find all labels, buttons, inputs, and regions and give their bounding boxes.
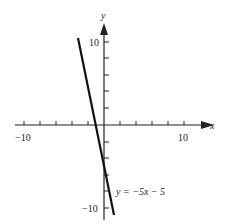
x-max-label: 10: [178, 132, 188, 143]
y-axis-label: y: [100, 10, 106, 21]
x-axis-label: x: [209, 120, 215, 131]
plotted-line: [78, 38, 114, 215]
y-axis-arrow-icon: [100, 23, 108, 35]
equation-label: y = −5x − 5: [115, 186, 165, 197]
coordinate-plane: y x −10 10 10 −10 y = −5x − 5: [0, 0, 227, 224]
y-min-label: −10: [82, 203, 98, 214]
y-max-label: 10: [89, 37, 99, 48]
x-min-label: −10: [15, 132, 31, 143]
